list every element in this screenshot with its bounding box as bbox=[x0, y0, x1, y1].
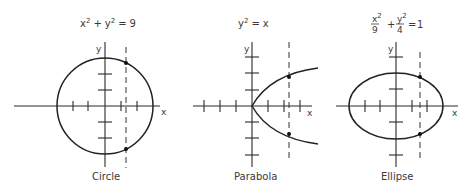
circle-caption: Circle bbox=[92, 171, 120, 182]
parabola-intersection-point bbox=[287, 132, 291, 136]
circle-x-label: x bbox=[161, 107, 167, 117]
ellipse-caption: Ellipse bbox=[381, 171, 413, 182]
svg-text:4: 4 bbox=[397, 25, 403, 35]
ellipse-intersection-point bbox=[418, 132, 422, 136]
parabola-x-label: x bbox=[307, 108, 313, 118]
parabola-intersection-point bbox=[287, 75, 291, 79]
circle-equation: x2+y2=9 bbox=[80, 17, 136, 29]
circle-y-label: y bbox=[96, 44, 102, 54]
svg-text:9: 9 bbox=[372, 25, 378, 35]
circle-intersection-point bbox=[124, 147, 128, 151]
svg-text:1: 1 bbox=[417, 19, 423, 30]
svg-text:y2: y2 bbox=[397, 12, 407, 24]
parabola-y-label: y bbox=[244, 44, 250, 54]
circle-intersection-point bbox=[124, 61, 128, 65]
conic-sections-diagram: x2+y2=9 y Circle y2=x x bbox=[0, 0, 467, 187]
ellipse-y-label: y bbox=[388, 44, 394, 54]
circle-panel: x2+y2=9 y Circle bbox=[14, 17, 160, 182]
svg-text:+: + bbox=[387, 19, 395, 30]
parabola-equation: y2=x bbox=[238, 17, 269, 29]
ellipse-intersection-point bbox=[418, 75, 422, 79]
parabola-panel: y2=x x y x Parabola bbox=[161, 17, 318, 182]
ellipse-x-label: x bbox=[452, 108, 458, 118]
parabola-caption: Parabola bbox=[234, 171, 277, 182]
ellipse-panel: x2 9 + y2 4 = 1 y x bbox=[336, 12, 458, 182]
ellipse-equation: x2 9 + y2 4 = 1 bbox=[371, 12, 423, 35]
svg-text:=: = bbox=[408, 19, 416, 30]
svg-text:x2: x2 bbox=[372, 12, 382, 24]
